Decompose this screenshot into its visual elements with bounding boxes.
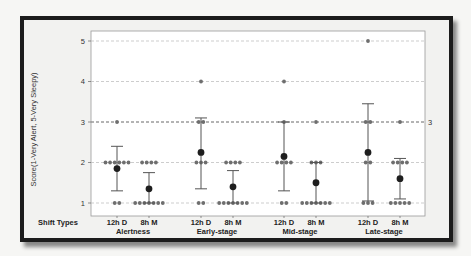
shift-type-label: 12h D xyxy=(107,218,128,227)
data-point xyxy=(233,161,237,165)
group-label: Alertness xyxy=(116,227,150,236)
y-tick-label: 2 xyxy=(81,158,85,167)
data-point xyxy=(284,161,288,165)
mean-marker xyxy=(313,179,320,186)
data-point xyxy=(229,161,233,165)
data-point xyxy=(328,201,332,205)
data-point xyxy=(204,161,208,165)
data-point xyxy=(314,120,318,124)
data-point xyxy=(199,80,203,84)
y-tick-label: 5 xyxy=(81,37,85,46)
y-tick-label: 4 xyxy=(81,77,85,86)
data-point xyxy=(403,201,407,205)
data-point xyxy=(245,201,249,205)
data-point xyxy=(389,201,393,205)
data-point xyxy=(284,201,288,205)
data-point xyxy=(115,120,119,124)
data-point xyxy=(145,161,149,165)
shift-type-label: 12h D xyxy=(358,218,379,227)
data-point xyxy=(394,201,398,205)
data-point xyxy=(275,161,279,165)
data-point xyxy=(391,161,395,165)
data-point xyxy=(364,161,368,165)
data-point xyxy=(366,39,370,43)
data-point xyxy=(197,201,201,205)
mean-marker xyxy=(146,185,153,192)
data-point xyxy=(127,161,131,165)
data-point xyxy=(398,201,402,205)
shift-type-label: 8h M xyxy=(224,218,241,227)
data-point xyxy=(400,161,404,165)
mean-marker xyxy=(230,183,237,190)
data-point xyxy=(117,161,121,165)
shift-type-label: 8h M xyxy=(307,218,324,227)
data-point xyxy=(364,120,368,124)
data-point xyxy=(300,201,304,205)
data-point xyxy=(156,201,160,205)
data-point xyxy=(122,161,126,165)
data-point xyxy=(117,201,121,205)
mean-marker xyxy=(397,175,404,182)
data-point xyxy=(398,120,402,124)
data-point xyxy=(280,161,284,165)
data-point xyxy=(240,201,244,205)
data-point xyxy=(396,161,400,165)
data-point xyxy=(368,161,372,165)
data-point xyxy=(280,201,284,205)
data-point xyxy=(371,201,375,205)
mean-marker xyxy=(114,165,121,172)
group-label: Early-stage xyxy=(197,227,237,236)
data-point xyxy=(138,201,142,205)
mean-marker xyxy=(281,153,288,160)
data-point xyxy=(407,201,411,205)
data-point xyxy=(133,201,137,205)
data-point xyxy=(282,80,286,84)
data-point xyxy=(289,161,293,165)
data-point xyxy=(104,161,108,165)
data-point xyxy=(195,161,199,165)
data-point xyxy=(362,201,366,205)
data-point xyxy=(222,201,226,205)
data-point xyxy=(197,120,201,124)
data-point xyxy=(305,201,309,205)
mean-marker xyxy=(198,149,205,156)
shift-type-label: 12h D xyxy=(191,218,212,227)
data-point xyxy=(323,201,327,205)
y-tick-label: 3 xyxy=(81,118,85,127)
data-point xyxy=(224,161,228,165)
data-point xyxy=(113,201,117,205)
data-point xyxy=(113,161,117,165)
data-point xyxy=(161,201,165,205)
data-point xyxy=(140,161,144,165)
data-point xyxy=(108,161,112,165)
data-point xyxy=(154,161,158,165)
data-point xyxy=(405,161,409,165)
data-point xyxy=(366,201,370,205)
reference-line-label: 3 xyxy=(428,118,432,127)
shift-types-row-title: Shift Types xyxy=(38,218,78,227)
plot-background xyxy=(91,31,425,216)
mean-marker xyxy=(365,149,372,156)
group-label: Mid-stage xyxy=(282,227,317,236)
data-point xyxy=(149,161,153,165)
plot-area: 12345312h D8h M12h D8h M12h D8h M12h D8h… xyxy=(0,0,471,256)
data-point xyxy=(238,161,242,165)
data-point xyxy=(217,201,221,205)
y-tick-label: 1 xyxy=(81,199,85,208)
shift-type-label: 8h M xyxy=(140,218,157,227)
shift-type-label: 12h D xyxy=(274,218,295,227)
data-point xyxy=(368,120,372,124)
shift-type-label: 8h M xyxy=(391,218,408,227)
group-label: Late-stage xyxy=(365,227,403,236)
data-point xyxy=(201,120,205,124)
data-point xyxy=(201,201,205,205)
